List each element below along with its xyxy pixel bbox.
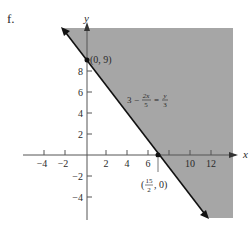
svg-text:15: 15 <box>146 177 154 185</box>
svg-text:3: 3 <box>127 95 132 105</box>
svg-text:−: − <box>134 95 139 105</box>
x-tick-label: 10 <box>185 158 195 169</box>
x-tick-label: 12 <box>206 158 216 169</box>
y-tick-label: −4 <box>72 192 83 203</box>
svg-text:3: 3 <box>163 101 167 109</box>
y-tick-label: 6 <box>78 87 83 98</box>
y-ticks <box>87 71 92 197</box>
inequality-graph: −4 −2 2 4 6 10 12 8 6 4 2 −2 −4 x y (0, … <box>0 0 252 230</box>
svg-text:, 0): , 0) <box>154 179 167 191</box>
point-x-intercept <box>156 153 161 158</box>
point-label-0-9: (0, 9) <box>90 54 112 66</box>
x-tick-label: 6 <box>146 158 151 169</box>
x-axis-label: x <box>242 148 248 160</box>
svg-text:=: = <box>154 95 159 105</box>
point-label-15-2-0: ( 15 2 , 0) <box>141 177 167 194</box>
svg-text:2x: 2x <box>143 92 151 100</box>
svg-text:(: ( <box>141 179 145 191</box>
y-tick-label: 8 <box>78 66 83 77</box>
point-y-intercept <box>85 58 90 63</box>
y-axis-label: y <box>83 12 89 24</box>
x-tick-label: −2 <box>58 158 69 169</box>
x-tick-label: −4 <box>37 158 48 169</box>
svg-text:5: 5 <box>144 101 148 109</box>
y-tick-label: −2 <box>72 171 83 182</box>
y-tick-label: 2 <box>78 129 83 140</box>
x-tick-label: 4 <box>125 158 130 169</box>
x-tick-label: 2 <box>104 158 109 169</box>
x-axis-arrow-icon <box>229 152 238 158</box>
y-tick-label: 4 <box>78 108 83 119</box>
svg-text:2: 2 <box>147 186 151 194</box>
